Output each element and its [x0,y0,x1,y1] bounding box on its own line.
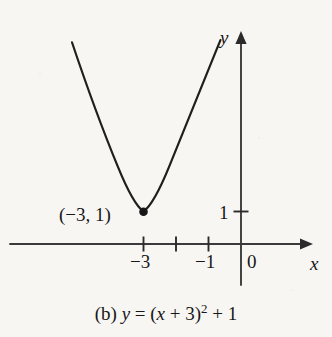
caption-part-x: x [157,303,165,324]
x-axis-arrowhead [300,238,313,249]
caption-part-plus-one: + 1 [208,303,238,324]
vertex-point-marker [139,208,148,217]
x-tick-label-neg3: −3 [130,252,150,271]
parabola-figure: y x −3 −1 1 0 (−3, 1) (b) y = (x + 3)2 +… [0,0,332,337]
vertex-coordinate-label: (−3, 1) [59,205,111,224]
y-tick-label-1: 1 [219,203,229,222]
figure-caption: (b) y = (x + 3)2 + 1 [0,303,332,326]
parabola-curve [72,40,221,212]
origin-label: 0 [247,252,257,271]
caption-part-plus-three: + 3 [165,303,195,324]
y-axis [235,31,246,285]
x-tick-label-neg1: −1 [195,252,215,271]
x-axis [10,238,313,249]
y-axis-arrowhead [235,31,246,44]
caption-part-equals: = [130,303,150,324]
x-axis-label: x [310,254,318,273]
graph-canvas [0,0,332,337]
y-axis-label: y [220,28,228,47]
caption-part-label: (b) [95,303,122,324]
caption-part-y: y [122,303,130,324]
